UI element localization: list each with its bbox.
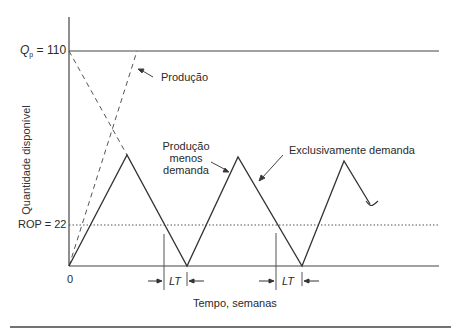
demand-only-annotation: Exclusivamente demanda <box>289 144 415 156</box>
pmd-line-1: Produção <box>162 140 210 152</box>
lt-label-2: LT <box>282 275 294 287</box>
qp-symbol: Q <box>20 43 29 57</box>
production-dashed-line <box>69 51 137 266</box>
y-axis-label: Quantidade disponível <box>20 105 32 214</box>
rop-label: ROP = 22 <box>18 218 66 230</box>
pmd-line-2: menos <box>162 152 210 164</box>
qp-label: Qp = 110 <box>20 44 66 61</box>
annotation-arrows <box>138 69 283 181</box>
demand-dashed-line <box>69 51 127 155</box>
production-annotation: Produção <box>161 71 208 83</box>
inventory-level-line <box>69 155 370 266</box>
x-axis-label: Tempo, semanas <box>193 297 277 309</box>
pmd-line-3: demanda <box>162 164 210 176</box>
break-squiggle <box>366 201 378 206</box>
origin-label: 0 <box>67 273 73 285</box>
lt-label-1: LT <box>169 275 181 287</box>
production-minus-demand-annotation: Produção menos demanda <box>162 140 210 176</box>
qp-value: = 110 <box>33 43 66 57</box>
